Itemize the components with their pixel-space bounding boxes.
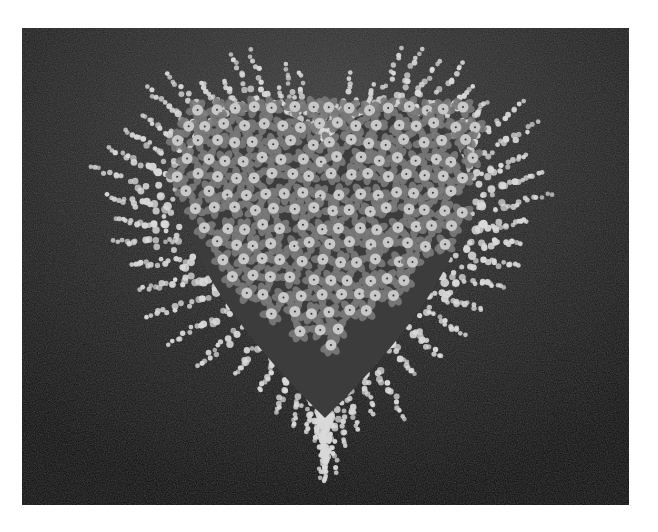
heart-floral-photo — [22, 28, 629, 505]
heart-arrangement — [22, 28, 629, 505]
